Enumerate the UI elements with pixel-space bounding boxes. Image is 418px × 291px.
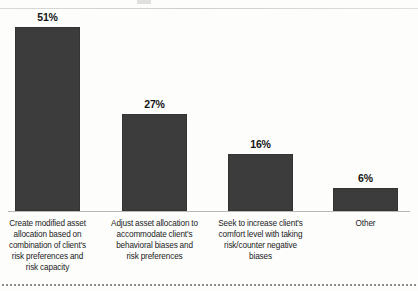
category-label-3-line-3: risk/counter negative: [217, 240, 304, 251]
category-label-2-line-1: Adjust asset allocation to: [111, 218, 198, 229]
x-axis-baseline: [8, 211, 410, 212]
category-label-3: Seek to increase client's comfort level …: [217, 218, 304, 262]
category-label-1: Create modified asset allocation based o…: [4, 218, 91, 273]
bar-value-label-1: 51%: [15, 11, 80, 23]
bar-3[interactable]: [228, 154, 293, 211]
category-label-2-line-3: behavioral biases and: [111, 240, 198, 251]
bar-4[interactable]: [333, 188, 398, 211]
category-label-2-line-4: risk preferences: [111, 251, 198, 262]
bar-1[interactable]: [15, 27, 80, 211]
category-label-1-line-5: risk capacity: [4, 262, 91, 273]
category-label-1-line-4: risk preferences and: [4, 251, 91, 262]
category-label-4: Other: [322, 218, 409, 229]
category-label-4-line-1: Other: [322, 218, 409, 229]
bar-value-label-3: 16%: [228, 138, 293, 150]
bar-value-label-2: 27%: [122, 98, 187, 110]
bar-2[interactable]: [122, 114, 187, 211]
category-label-3-line-2: comfort level with taking: [217, 229, 304, 240]
category-label-1-line-1: Create modified asset: [4, 218, 91, 229]
category-label-3-line-1: Seek to increase client's: [217, 218, 304, 229]
category-label-1-line-3: combination of client's: [4, 240, 91, 251]
category-label-2: Adjust asset allocation to accommodate c…: [111, 218, 198, 262]
bar-value-label-4: 6%: [333, 172, 398, 184]
plot-area: 51% Create modified asset allocation bas…: [0, 0, 418, 291]
bar-chart-figure: 51% Create modified asset allocation bas…: [0, 0, 418, 291]
figure-bottom-divider: [2, 284, 416, 286]
category-label-3-line-4: biases: [217, 251, 304, 262]
category-label-2-line-2: accommodate client's: [111, 229, 198, 240]
category-label-1-line-2: allocation based on: [4, 229, 91, 240]
